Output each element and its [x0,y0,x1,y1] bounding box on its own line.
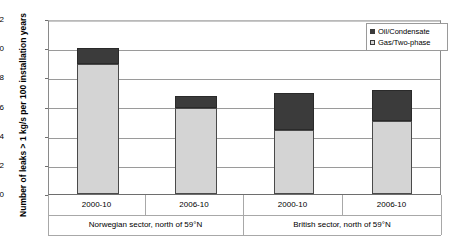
bar-segment-oil-condensate [274,93,314,129]
y-tick-label-8: 8 [0,74,4,82]
category-row-divider [48,215,441,216]
bar-norwegian-2006-10 [175,96,217,194]
y-tick-label-6: 6 [0,104,4,112]
bar-segment-oil-condensate [175,96,217,108]
x-tick-label-norwegian-2000-10: 2000-10 [48,200,145,209]
y-tick-label-12: 12 [0,16,4,24]
bar-british-2006-10 [372,90,412,194]
bar-segment-gas-two-phase [372,121,412,194]
y-tick-label-10: 10 [0,45,4,53]
plot-area: Oil/Condensate Gas/Two-phase [48,20,441,195]
x-tick-label-british-2000-10: 2000-10 [243,200,342,209]
x-tick-label-norwegian-2006-10: 2006-10 [145,200,243,209]
category-separator-right-edge [441,195,442,215]
bar-british-2000-10 [274,93,314,194]
legend-item-gas-two-phase: Gas/Two-phase [370,37,444,48]
stacked-bar-chart: Number of leaks > 1 kg/s per 100 install… [0,0,458,246]
bar-segment-gas-two-phase [274,130,314,194]
group-separator-right-edge [441,215,442,235]
y-tick-label-4: 4 [0,133,4,141]
y-axis-title: Number of leaks > 1 kg/s per 100 install… [18,0,28,230]
y-tick-label-0: 0 [0,191,4,199]
group-label-norwegian-sector: Norwegian sector, north of 59°N [48,220,243,229]
group-row-divider [48,235,441,236]
bar-segment-gas-two-phase [77,64,119,194]
legend-item-oil-condensate: Oil/Condensate [370,26,444,37]
oil-condensate-swatch-icon [370,29,375,34]
bar-segment-oil-condensate [372,90,412,121]
x-tick-label-british-2006-10: 2006-10 [342,200,441,209]
y-tick-label-2: 2 [0,162,4,170]
gridline-12 [49,21,440,22]
group-label-british-sector: British sector, north of 59°N [243,220,441,229]
legend-label-oil-condensate: Oil/Condensate [378,28,430,36]
bar-segment-oil-condensate [77,48,119,64]
bar-segment-gas-two-phase [175,108,217,194]
gas-two-phase-swatch-icon [370,40,375,45]
legend: Oil/Condensate Gas/Two-phase [366,23,448,51]
bar-norwegian-2000-10 [77,48,119,194]
legend-label-gas-two-phase: Gas/Two-phase [378,39,431,47]
